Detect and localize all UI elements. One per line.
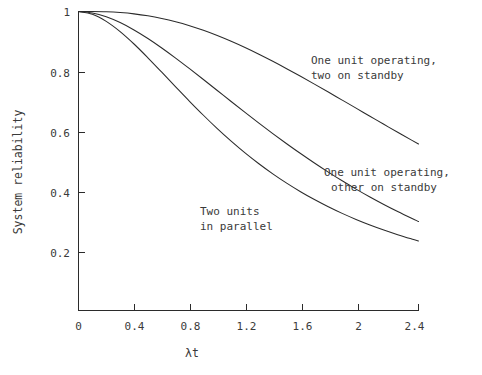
x-axis-title: λt <box>185 346 199 360</box>
x-tick-label-2-4: 2.4 <box>405 320 425 333</box>
annotation-two-units-parallel: Two units in parallel <box>200 205 273 233</box>
annotation-1-line-2: two on standby <box>311 69 404 82</box>
annotation-2-line-2: other on standby <box>331 181 437 194</box>
reliability-chart: 1 0.8 0.6 0.4 0.2 0 0.4 0.8 1.2 1.6 2 2.… <box>0 0 482 375</box>
annotation-2-line-1: One unit operating, <box>324 166 450 179</box>
y-axis-title: System reliability <box>11 110 25 235</box>
x-tick-label-1-2: 1.2 <box>237 320 257 333</box>
x-tick-label-0-4: 0.4 <box>125 320 145 333</box>
y-tick-label-0-6: 0.6 <box>50 127 70 140</box>
x-tick-label-0-8: 0.8 <box>181 320 201 333</box>
y-tick-label-0-8: 0.8 <box>50 67 70 80</box>
y-tick-marks <box>79 73 86 253</box>
y-tick-label-0-4: 0.4 <box>50 187 70 200</box>
x-tick-label-0: 0 <box>75 320 82 333</box>
x-tick-marks <box>135 304 359 311</box>
y-tick-label-1: 1 <box>63 6 70 19</box>
annotation-one-operating-two-standby: One unit operating, two on standby <box>311 54 437 82</box>
y-tick-label-0-2: 0.2 <box>50 247 70 260</box>
annotation-one-operating-other-standby: One unit operating, other on standby <box>324 166 450 194</box>
annotation-1-line-1: One unit operating, <box>311 54 437 67</box>
annotation-3-line-1: Two units <box>200 205 260 218</box>
annotation-3-line-2: in parallel <box>200 220 273 233</box>
x-tick-label-2: 2 <box>355 320 362 333</box>
x-tick-label-1-6: 1.6 <box>293 320 313 333</box>
